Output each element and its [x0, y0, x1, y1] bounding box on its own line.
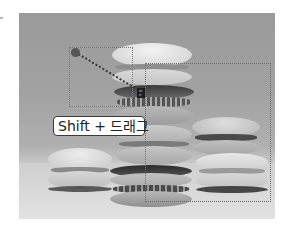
shift-drag-hint-label: Shift + 드래그 — [53, 116, 145, 136]
size-readout: W: H: — [137, 88, 145, 98]
readout-height: H: — [139, 93, 143, 97]
drag-start-point-icon — [71, 48, 80, 57]
drag-path-icon — [0, 0, 295, 233]
